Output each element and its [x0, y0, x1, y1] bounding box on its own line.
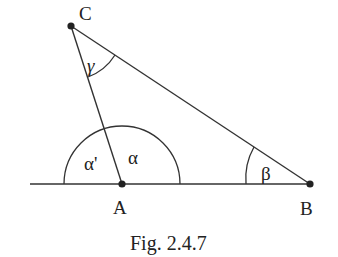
label-alpha: α — [128, 147, 138, 168]
vertex-a-dot — [118, 180, 125, 187]
label-c: C — [79, 3, 92, 24]
label-beta: β — [261, 163, 271, 184]
figure-caption: Fig. 2.4.7 — [130, 232, 207, 255]
label-b: B — [300, 198, 313, 219]
label-alpha-prime: α' — [84, 153, 97, 174]
triangle-diagram: C A B γ α' α β Fig. 2.4.7 — [0, 0, 338, 257]
angle-arc-beta — [246, 147, 254, 184]
vertex-c-dot — [67, 22, 74, 29]
label-gamma: γ — [87, 55, 95, 76]
side-cb — [71, 26, 310, 184]
label-a: A — [113, 197, 127, 218]
angle-arc-alpha — [64, 126, 180, 184]
vertex-b-dot — [306, 180, 313, 187]
